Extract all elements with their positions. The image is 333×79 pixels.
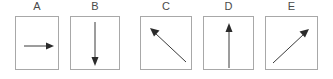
panel-d: D xyxy=(203,0,254,70)
panel-e-label: E xyxy=(265,0,318,13)
panel-c-label: C xyxy=(140,0,192,13)
arrow-down-icon xyxy=(70,16,120,70)
panel-d-label: D xyxy=(203,0,254,13)
arrow-up-left-icon xyxy=(140,16,192,70)
arrow-up-right-icon xyxy=(265,16,318,70)
arrow-right-icon xyxy=(15,16,59,70)
panel-b: B xyxy=(70,0,120,70)
panel-c: C xyxy=(140,0,192,70)
panel-e: E xyxy=(265,0,318,70)
arrow-up-icon xyxy=(203,16,254,70)
panel-b-label: B xyxy=(70,0,120,13)
panel-a-label: A xyxy=(15,0,59,13)
arrow-direction-figure: A B C D E xyxy=(0,0,333,79)
panel-a: A xyxy=(15,0,59,70)
